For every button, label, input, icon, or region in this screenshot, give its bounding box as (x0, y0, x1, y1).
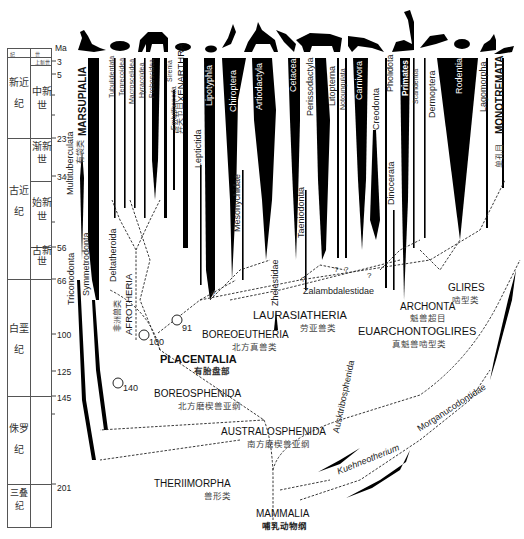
taxon-rodentia: Rodentia (455, 58, 464, 94)
clade-australosphenida-cn: 南方磨楔兽亚纲 (247, 440, 310, 449)
taxon-marsupialia: MARSUPIALIA (78, 67, 88, 136)
rat-icon (454, 39, 470, 49)
taxon-hyracoidea: Hyracoidea (138, 63, 145, 98)
taxon-xenarthra: XENARTHRA (176, 44, 186, 102)
node-100 (139, 330, 149, 340)
clade-afrotheria: AFROTHERIA (124, 274, 134, 335)
taxon-chiroptera: Chiroptera (229, 70, 238, 112)
taxon-mesonychidae: Mesonychidae (233, 174, 242, 232)
bat-icon (222, 24, 236, 48)
taxon-tubulidentata: Tubulidentata (108, 56, 115, 98)
taxon-pholidota: Pholidota (386, 54, 395, 92)
uncertain-mark: ? (334, 266, 338, 274)
taxon-monotremata-cn: 单孔目 (496, 144, 504, 168)
uncertain-mark: ? (301, 276, 305, 284)
uncertain-mark: ? (344, 266, 348, 274)
dolphin-icon (276, 30, 296, 52)
taxon-artiodactyla: Artiodactyla (255, 63, 264, 110)
taxon-lagomorpha: Lagomorpha (479, 61, 488, 112)
taxon-zalambdalestidae: Zalambdalestidae (303, 287, 374, 296)
taxon-litopterna: Litopterna (328, 66, 337, 106)
rhinoceros-icon (296, 33, 342, 52)
clade-euarchontoglires: EUARCHONTOGLIRES (358, 326, 476, 337)
taxon-marsupialia-cn: 有袋类 (77, 140, 85, 164)
wolf-icon (348, 36, 384, 52)
taxon-leptictida: Leptictida (194, 129, 203, 168)
deer-icon (244, 22, 278, 52)
mammal-phylogeny-diagram: 纪 世 新近纪 古近纪 白垩纪 侏罗纪 三叠纪 上新世 中新世 渐新世 始新世 … (0, 0, 524, 539)
taxon-taeniodontia: Taeniodontia (297, 187, 306, 238)
clade-mammalia-cn: 哺乳动物纲 (262, 522, 307, 531)
taxon-cetacea: Cetacea (289, 58, 298, 92)
taxon-notoungulata: Notoungulata (339, 68, 346, 110)
taxon-carnivora: Carnivora (355, 61, 364, 100)
clade-boreoeutheria: BOREOEUTHERIA (202, 330, 289, 340)
clade-boreosphenida-cn: 北方磨楔兽亚纲 (178, 402, 241, 411)
lemur-icon (392, 10, 414, 52)
taxon-proboscidea: Proboscidea (148, 59, 155, 98)
taxon-monotremata: MONOTREMATA (495, 55, 505, 134)
elephant-icon (138, 32, 168, 52)
taxon-scandentia: Scandentia (412, 69, 419, 104)
taxon-triconodonta: Triconodonta (67, 253, 76, 305)
clade-glires: GLIRES (448, 283, 485, 293)
taxon-lipotyphla: Lipotyphla (205, 65, 214, 106)
clade-archonta: ARCHONTA (400, 302, 455, 312)
node-age-91: 91 (182, 324, 192, 333)
colugo-icon (420, 34, 448, 48)
taxon-sirenia: Sirenia (166, 60, 173, 82)
node-91 (172, 315, 182, 325)
clade-archonta-cn: 魁兽超目 (410, 314, 446, 323)
platypus-icon (494, 46, 514, 54)
taxon-macroscelidea: Macroscelidea (128, 59, 135, 104)
aardvark-icon (110, 41, 130, 51)
taxon-zhelestidae: Zhelestidae (271, 259, 280, 306)
taxon-dinocerata: Dinocerata (387, 161, 396, 205)
node-age-140: 140 (123, 384, 138, 393)
taxon-tenrecoidea: Tenrecoidea (118, 58, 125, 96)
taxon-perissodactyla: Perissodactyla (306, 57, 315, 116)
taxon-primates: Primates (401, 60, 410, 96)
clade-afrotheria-cn: 非洲兽类 (114, 300, 122, 332)
taxon-multituberculata: Multituberculata (66, 131, 75, 195)
kangaroo-icon (78, 30, 106, 52)
clade-placentalia: PLACENTALIA (160, 354, 237, 365)
uncertain-mark: ? (211, 290, 215, 298)
hedgehog-icon (205, 46, 217, 53)
clade-glires-cn: 啮型类 (452, 296, 479, 305)
taxon-xenarthra-cn: 异关节目 (176, 102, 184, 134)
node-age-100: 100 (149, 338, 164, 347)
clade-boreoeutheria-cn: 北方真兽类 (232, 343, 277, 352)
clade-placentalia-cn: 有胎盘部 (194, 367, 230, 376)
clade-boreosphenida: BOREOSPHENIDA (154, 389, 241, 399)
clade-theriimorpha-cn: 兽形类 (204, 492, 231, 501)
clade-laurasiatheria: LAURASIATHERIA (253, 310, 347, 321)
clade-theriimorpha: THERIIMORPHA (154, 479, 231, 489)
clade-laurasiatheria-cn: 劳亚兽类 (300, 324, 336, 333)
uncertain-mark: ? (367, 272, 371, 280)
node-140 (113, 378, 123, 388)
taxon-dermoptera: Dermoptera (428, 70, 437, 118)
clade-euarchontoglires-cn: 真魁兽啮型类 (392, 340, 446, 349)
taxon-deltatheroida: Deltatheroida (109, 228, 118, 282)
taxon-symmetrodonta: Symmetrodonta (82, 232, 91, 296)
rabbit-icon (480, 34, 496, 52)
taxon-creodonta: Creodonta (372, 88, 381, 130)
clade-mammalia: MAMMALIA (256, 509, 309, 519)
clade-australosphenida: AUSTRALOSPHENIDA (221, 427, 326, 437)
